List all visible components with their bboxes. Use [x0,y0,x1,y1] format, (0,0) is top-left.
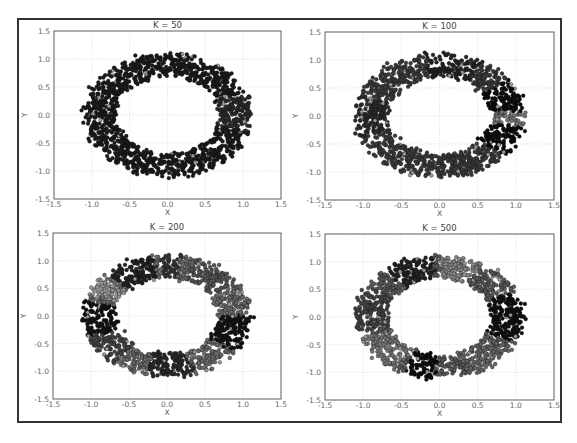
y-axis-label: Y [291,113,300,119]
y-tick-label: 1.5 [309,28,321,37]
x-tick-label: -0.5 [122,400,137,409]
x-tick-label: -0.5 [122,200,137,209]
x-axis-label: X [437,209,442,218]
x-tick-label: -1.0 [356,201,371,210]
subplot-2: -1.5-1.0-0.50.00.51.01.51.51.00.50.0-0.5… [291,21,560,218]
x-tick-label: 1.5 [275,400,287,409]
scatter-points [80,51,253,180]
x-tick-label: -0.5 [394,201,409,210]
x-tick-label: 1.0 [510,401,522,410]
x-tick-label: -1.0 [356,401,371,410]
y-tick-label: -1.0 [306,368,321,377]
y-tick-label: -1.0 [34,367,49,376]
figure: -1.5-1.0-0.50.00.51.01.51.51.00.50.0-0.5… [0,0,577,443]
subplot-title: K = 500 [422,223,456,233]
x-tick-label: 1.0 [237,400,249,409]
x-tick-label: 1.0 [510,201,522,210]
y-tick-label: 0.5 [37,284,49,293]
subplot-title: K = 100 [422,21,456,31]
x-tick-label: -1.0 [84,400,99,409]
y-tick-label: 1.5 [38,27,50,36]
y-tick-label: -1.0 [35,167,50,176]
y-tick-label: 0.0 [309,112,321,121]
x-tick-label: 0.5 [199,400,211,409]
subplot-4: -1.5-1.0-0.50.00.51.01.51.51.00.50.0-0.5… [291,223,560,418]
x-tick-label: 1.5 [548,201,560,210]
y-tick-label: -0.5 [35,139,50,148]
x-tick-label: 1.5 [275,200,287,209]
y-tick-label: -1.5 [306,396,321,405]
x-tick-label: 1.5 [548,401,560,410]
x-axis-label: X [164,408,169,417]
y-tick-label: -1.0 [306,168,321,177]
y-tick-label: 0.0 [37,312,49,321]
y-tick-label: -1.5 [306,196,321,205]
y-tick-label: 1.5 [37,229,49,238]
x-tick-label: 0.5 [199,200,211,209]
scatter-points [353,51,527,179]
x-tick-label: 1.0 [237,200,249,209]
y-tick-label: -0.5 [34,340,49,349]
y-tick-label: 1.0 [309,56,321,65]
x-tick-label: -1.0 [85,200,100,209]
y-tick-label: -1.5 [34,395,49,404]
y-axis-label: Y [291,314,300,320]
subplot-title: K = 200 [150,222,184,232]
scatter-points [354,253,528,382]
y-tick-label: 0.5 [38,83,50,92]
y-tick-label: 0.5 [309,84,321,93]
y-axis-label: Y [19,313,28,319]
y-tick-label: -0.5 [306,140,321,149]
y-tick-label: 0.0 [309,313,321,322]
y-tick-label: -1.5 [35,195,50,204]
y-tick-label: 1.0 [38,55,50,64]
x-axis-label: X [437,409,442,418]
y-tick-label: 1.0 [37,257,49,266]
y-tick-label: 1.0 [309,258,321,267]
y-tick-label: 0.0 [38,111,50,120]
x-tick-label: 0.5 [472,201,484,210]
x-axis-label: X [165,208,170,217]
y-axis-label: Y [20,112,29,118]
y-tick-label: -0.5 [306,341,321,350]
x-tick-label: 0.5 [472,401,484,410]
subplot-1: -1.5-1.0-0.50.00.51.01.51.51.00.50.0-0.5… [20,20,287,217]
subplot-title: K = 50 [153,20,182,30]
y-tick-label: 1.5 [309,230,321,239]
x-tick-label: -0.5 [394,401,409,410]
subplot-3: -1.5-1.0-0.50.00.51.01.51.51.00.50.0-0.5… [19,222,287,417]
y-tick-label: 0.5 [309,285,321,294]
